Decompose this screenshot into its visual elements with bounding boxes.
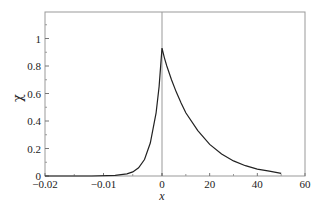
y-tick-label: 0.6 — [27, 88, 41, 100]
x-tick-label: 60 — [300, 178, 312, 190]
x-tick-label: −0.02 — [32, 178, 57, 190]
y-tick-label: 0.4 — [27, 115, 41, 127]
y-tick-label: 0.8 — [27, 60, 41, 72]
chi-curve — [45, 48, 281, 176]
x-tick-label: 20 — [204, 178, 216, 190]
plot-frame — [45, 12, 305, 176]
y-tick-label: 0.2 — [27, 143, 41, 155]
x-tick-label: 40 — [252, 178, 264, 190]
chart: 00.20.40.60.81−0.02−0.010204060 x χ — [0, 0, 322, 213]
x-axis-label: x — [158, 189, 165, 203]
axis-ticks — [45, 25, 305, 176]
y-tick-label: 1 — [36, 33, 42, 45]
x-tick-label: −0.01 — [91, 178, 116, 190]
y-axis-label: χ — [10, 94, 25, 102]
tick-labels: 00.20.40.60.81−0.02−0.010204060 — [27, 33, 311, 191]
